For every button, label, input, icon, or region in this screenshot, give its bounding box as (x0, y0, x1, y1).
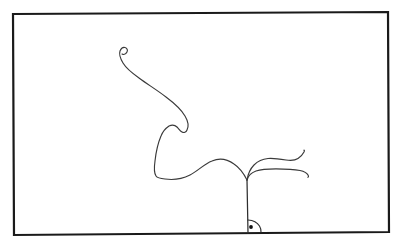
seed-dot (249, 225, 253, 229)
upper-right-tendril (247, 150, 304, 180)
lower-right-tendril (247, 169, 308, 180)
line-drawing-svg (0, 0, 398, 252)
plant-stem (247, 180, 248, 233)
picture-frame-border (13, 12, 389, 235)
illustration-canvas: Sprout Line Drawing seedling-sprout long… (0, 0, 398, 252)
long-left-tendril (120, 47, 247, 180)
